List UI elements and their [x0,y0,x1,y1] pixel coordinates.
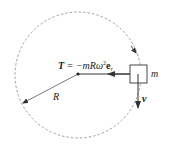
radius-label: R [52,91,59,102]
circular-motion-diagram: R m v T = −mRω2er [0,0,170,146]
velocity-label: v [142,93,147,104]
mass-label: m [151,68,158,79]
tension-equation: T = −mRω2er [58,60,113,72]
orbit-direction-arrow [131,46,136,53]
radius-line [23,74,78,103]
